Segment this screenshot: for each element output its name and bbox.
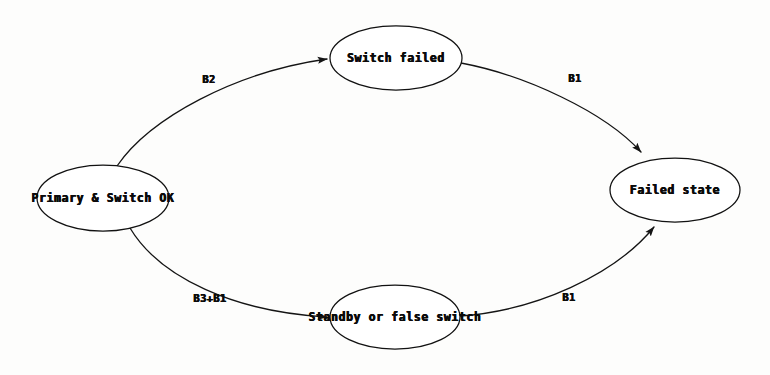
edges-group (117, 59, 654, 317)
node-standby-or-false-switch[interactable] (330, 285, 460, 349)
nodes-group (37, 26, 740, 349)
edge-standby-to-failed-state (460, 227, 654, 316)
edge-ok-to-switch-failed (117, 59, 327, 166)
node-switch-failed[interactable] (330, 26, 462, 90)
node-failed-state[interactable] (610, 158, 740, 222)
edge-switch-failed-to-failed-state (461, 63, 641, 152)
diagram-vector-layer (0, 0, 770, 375)
state-diagram-canvas: Primary & Switch OK Switch failed Standb… (0, 0, 770, 375)
node-primary-switch-ok[interactable] (37, 165, 169, 231)
edge-ok-to-standby (130, 228, 327, 317)
